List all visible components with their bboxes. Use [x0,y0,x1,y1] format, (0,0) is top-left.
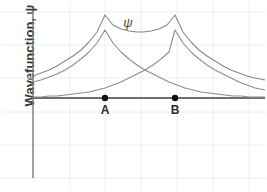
point-b-label: B [167,103,183,117]
nucleus-point-b [172,95,178,101]
nucleus-point-a [102,95,108,101]
curve-molecular-orbital-sum [33,15,265,80]
wavefunction-curves [33,15,265,97]
psi-annotation-label: ψ [118,15,138,30]
wavefunction-figure: Wavefunction, ψ A B ψ [0,0,267,192]
curve-atomic-orbital-B [33,30,265,97]
curve-atomic-orbital-A [33,30,265,97]
gridlines [2,2,266,190]
point-a-label: A [97,103,113,117]
